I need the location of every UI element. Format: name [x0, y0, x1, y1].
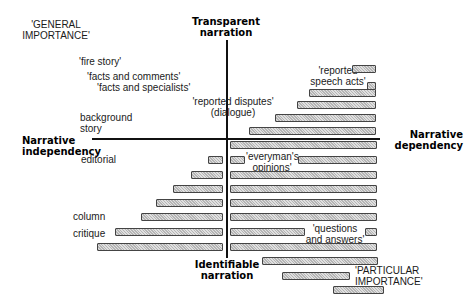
hatched-bar [230, 156, 245, 164]
axis-label-narrative-dependency: Narrative dependency [383, 129, 463, 151]
axis-label-line: narration [191, 27, 261, 38]
label-particular-importance: 'PARTICULAR IMPORTANCE' [355, 265, 423, 287]
hatched-bar [309, 89, 376, 97]
hatched-bar [297, 101, 376, 109]
hatched-bar [352, 65, 376, 73]
label-line: 'reported disputes' [183, 96, 283, 107]
hatched-bar [97, 243, 223, 251]
label-line: speech acts' [309, 76, 367, 87]
axis-label-line: Narrative [22, 135, 101, 146]
label-editorial: editorial [81, 154, 116, 165]
label-line: 'questions [305, 223, 365, 234]
axis-label-line: Identifiable [190, 259, 264, 270]
vertical-axis [226, 40, 228, 258]
hatched-bar [262, 257, 378, 265]
hatched-bar [230, 243, 377, 251]
label-fire-story: 'fire story' [79, 56, 121, 67]
axis-label-line: narration [190, 270, 264, 281]
label-critique: critique [73, 228, 105, 239]
hatched-bar [141, 213, 223, 221]
label-column: column [73, 211, 105, 222]
label-reported-disputes: 'reported disputes' (dialogue) [183, 96, 283, 118]
label-everymans-opinions: 'everyman's opinions' [246, 151, 298, 173]
hatched-bar [156, 199, 223, 207]
hatched-bar [230, 213, 377, 221]
label-line: 'PARTICULAR [355, 265, 423, 276]
label-general-importance: 'GENERAL IMPORTANCE' [18, 19, 94, 41]
hatched-bar [282, 272, 350, 280]
axis-label-transparent-narration: Transparent narration [191, 16, 261, 38]
label-line: story [80, 123, 132, 134]
label-facts-and-comments: 'facts and comments' [87, 71, 180, 82]
axis-label-line: Narrative [383, 129, 463, 140]
hatched-bar [230, 141, 377, 149]
label-facts-and-specialists: 'facts and specialists' [97, 82, 190, 93]
label-line: 'everyman's [246, 151, 298, 162]
label-line: (dialogue) [183, 107, 283, 118]
label-line: 'GENERAL [18, 19, 94, 30]
hatched-bar [230, 185, 377, 193]
hatched-bar [365, 228, 377, 236]
hatched-bar [275, 114, 376, 122]
hatched-bar [298, 156, 377, 164]
hatched-bar [230, 171, 377, 179]
horizontal-axis [92, 138, 380, 140]
hatched-bar [230, 228, 305, 236]
hatched-bar [115, 228, 223, 236]
axis-label-line: Transparent [191, 16, 261, 27]
hatched-bar [208, 156, 223, 164]
label-background-story: background story [80, 112, 132, 134]
hatched-bar [191, 171, 223, 179]
label-line: IMPORTANCE' [18, 30, 94, 41]
hatched-bar [249, 127, 376, 135]
hatched-bar [230, 199, 377, 207]
label-line: background [80, 112, 132, 123]
axis-label-line: dependency [383, 140, 463, 151]
axis-label-identifiable-narration: Identifiable narration [190, 259, 264, 281]
label-questions-and-answers: 'questions and answers' [305, 223, 365, 245]
hatched-bar [333, 286, 384, 294]
hatched-bar [173, 185, 223, 193]
